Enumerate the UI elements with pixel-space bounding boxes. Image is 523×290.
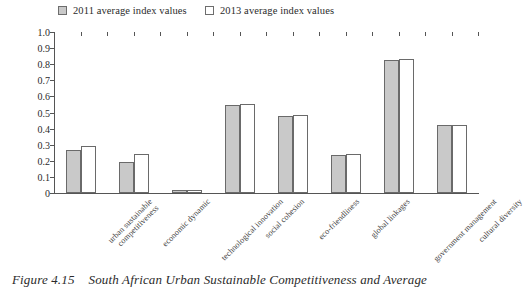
x-tick-mark	[187, 32, 188, 36]
x-axis-label-3: social cohesion	[263, 197, 306, 240]
bar-2013-1	[134, 154, 149, 193]
x-tick-mark	[452, 32, 453, 36]
x-tick-mark	[372, 32, 373, 36]
x-axis-label-line1: cultural diversity	[476, 197, 523, 244]
y-tick-label: 0.1	[38, 171, 51, 182]
x-axis-label-6: government management	[431, 197, 498, 264]
x-axis-label-line1: urban sustainable	[106, 197, 154, 245]
x-axis-label-line1: economic dynamic	[160, 197, 211, 248]
bar-2011-6	[384, 60, 399, 193]
figure-number: Figure 4.15	[12, 272, 75, 287]
y-tick-label: 0.9	[38, 43, 51, 54]
y-tick-mark	[50, 64, 54, 65]
bar-2013-4	[293, 115, 308, 193]
x-tick-mark	[478, 32, 479, 36]
x-tick-mark	[160, 32, 161, 36]
x-tick-mark	[240, 32, 241, 36]
x-axis-label-0: urban sustainablecompetitiveness	[106, 197, 160, 251]
x-axis-label-line1: technological innovation	[219, 197, 284, 262]
x-tick-mark	[107, 32, 108, 36]
y-tick-mark	[50, 113, 54, 114]
x-axis-label-line1: social cohesion	[263, 197, 306, 240]
figure-caption: Figure 4.15South African Urban Sustainab…	[12, 272, 480, 288]
figure-caption-text: South African Urban Sustainable Competit…	[89, 272, 427, 287]
y-tick-label: 0.8	[38, 59, 51, 70]
y-tick-mark	[50, 48, 54, 49]
bar-2013-0	[81, 146, 96, 193]
y-tick-label: 1.0	[38, 27, 51, 38]
bar-2013-7	[452, 125, 467, 193]
bar-2011-7	[437, 125, 452, 193]
bar-2011-5	[331, 155, 346, 193]
bar-2011-1	[119, 162, 134, 193]
x-tick-mark	[319, 32, 320, 36]
y-tick-label: 0	[45, 188, 50, 199]
x-axis-label-1: economic dynamic	[160, 197, 211, 248]
x-tick-mark	[346, 32, 347, 36]
x-axis-label-line2: competitiveness	[112, 203, 160, 251]
x-axis-label-line1: eco-friendliness	[316, 197, 360, 241]
y-tick-label: 0.4	[38, 123, 51, 134]
y-tick-label: 0.2	[38, 155, 51, 166]
bar-2013-6	[399, 59, 414, 193]
x-tick-mark	[54, 32, 55, 36]
x-tick-mark	[266, 32, 267, 36]
bar-2011-3	[225, 105, 240, 193]
x-tick-mark	[425, 32, 426, 36]
y-tick-label: 0.5	[38, 107, 51, 118]
y-tick-mark	[50, 80, 54, 81]
bar-2013-3	[240, 104, 255, 193]
x-axis-label-4: eco-friendliness	[316, 197, 360, 241]
y-tick-label: 0.3	[38, 139, 51, 150]
bar-2013-5	[346, 154, 361, 193]
x-axis-label-2: technological innovation	[219, 197, 284, 262]
x-axis-label-7: cultural diversity	[476, 197, 523, 244]
bar-2011-0	[66, 150, 81, 193]
y-tick-label: 0.6	[38, 91, 51, 102]
x-tick-mark	[81, 32, 82, 36]
x-tick-mark	[213, 32, 214, 36]
y-tick-mark	[50, 96, 54, 97]
y-tick-mark	[50, 129, 54, 130]
x-axis-label-line1: government management	[431, 197, 498, 264]
x-tick-mark	[293, 32, 294, 36]
x-axis-label-line1: global linkages	[369, 197, 412, 240]
bar-2011-2	[172, 190, 187, 193]
y-tick-mark	[50, 193, 54, 194]
x-tick-mark	[399, 32, 400, 36]
bar-2013-2	[187, 190, 202, 193]
plot-area: 1.00.90.80.70.60.50.40.30.20.10	[54, 32, 478, 193]
y-tick-label: 0.7	[38, 75, 51, 86]
x-axis-label-5: global linkages	[369, 197, 412, 240]
y-tick-mark	[50, 145, 54, 146]
y-tick-mark	[50, 177, 54, 178]
bar-2011-4	[278, 116, 293, 193]
x-axis-line	[54, 193, 479, 194]
y-tick-mark	[50, 161, 54, 162]
x-tick-mark	[134, 32, 135, 36]
